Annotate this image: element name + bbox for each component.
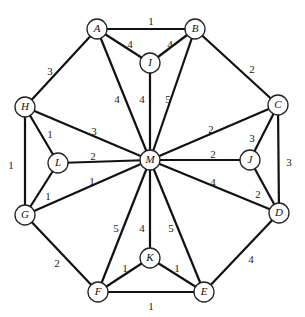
- node-label: A: [93, 22, 101, 34]
- weighted-graph-diagram: 1443445231121122332245451114 ABIHCLMJGDK…: [0, 0, 305, 317]
- edge-weight-A-I: 4: [127, 38, 133, 50]
- node-H: H: [15, 97, 35, 117]
- node-label: G: [21, 208, 29, 220]
- edge-weight-H-G: 1: [8, 159, 14, 171]
- edge-weight-I-M: 4: [139, 93, 145, 105]
- node-C: C: [268, 95, 288, 115]
- edge-weight-C-D: 3: [286, 156, 292, 168]
- node-K: K: [140, 248, 160, 268]
- node-M: M: [140, 150, 160, 170]
- node-A: A: [87, 19, 107, 39]
- node-label: C: [274, 98, 282, 110]
- node-G: G: [15, 205, 35, 225]
- edge-weight-B-C: 2: [249, 63, 255, 75]
- edge-weight-A-B: 1: [148, 15, 154, 27]
- node-label: F: [94, 285, 102, 297]
- node-L: L: [48, 153, 68, 173]
- edge-weight-A-H: 3: [47, 65, 53, 77]
- edge-weight-L-G: 1: [45, 190, 51, 202]
- node-J: J: [240, 150, 260, 170]
- edge-weight-H-M: 3: [91, 125, 97, 137]
- node-label: K: [145, 251, 154, 263]
- node-D: D: [269, 203, 289, 223]
- edge-D-E: [204, 213, 279, 292]
- edge-weight-I-B: 4: [167, 38, 173, 50]
- node-E: E: [194, 282, 214, 302]
- edge-weight-A-M: 4: [114, 93, 120, 105]
- edge-weight-C-M: 2: [208, 123, 214, 135]
- edge-G-F: [25, 215, 98, 292]
- edge-weight-M-K: 4: [139, 222, 145, 234]
- node-B: B: [185, 19, 205, 39]
- edge-weight-M-F: 5: [113, 222, 119, 234]
- edge-B-C: [195, 29, 278, 105]
- node-F: F: [88, 282, 108, 302]
- edge-C-D: [278, 105, 279, 213]
- edge-weight-K-F: 1: [122, 262, 128, 274]
- edge-A-H: [25, 29, 97, 107]
- edge-weight-M-J: 2: [210, 148, 216, 160]
- node-label: M: [144, 153, 155, 165]
- edge-weight-C-J: 3: [249, 132, 255, 144]
- node-I: I: [140, 53, 160, 73]
- node-label: H: [20, 100, 30, 112]
- node-label: E: [200, 285, 208, 297]
- node-label: B: [192, 22, 199, 34]
- edge-weight-K-E: 1: [174, 262, 180, 274]
- edge-weight-G-M: 1: [89, 175, 95, 187]
- edge-L-M: [58, 160, 150, 163]
- edge-weight-M-D: 4: [210, 176, 216, 188]
- edge-weight-M-E: 5: [168, 222, 174, 234]
- edge-weight-B-M: 5: [165, 93, 171, 105]
- edge-weight-G-F: 2: [54, 257, 60, 269]
- node-label: L: [54, 156, 61, 168]
- edge-weight-F-E: 1: [148, 300, 154, 312]
- edge-weight-D-E: 4: [248, 253, 254, 265]
- edge-weight-L-M: 2: [90, 150, 96, 162]
- node-label: D: [274, 206, 283, 218]
- edge-weight-H-L: 1: [47, 128, 53, 140]
- edge-weight-J-D: 2: [255, 188, 261, 200]
